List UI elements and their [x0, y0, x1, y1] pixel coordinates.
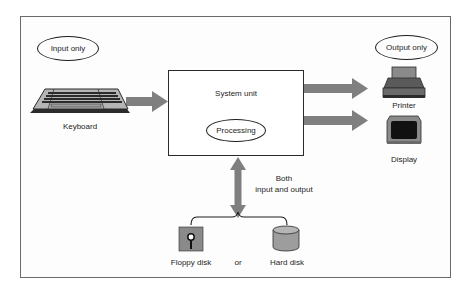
both-label-line2: input and output	[244, 185, 324, 195]
both-label-line1: Both	[258, 174, 310, 184]
display-label: Display	[384, 155, 424, 165]
system-unit-box	[168, 70, 304, 156]
processing-oval: Processing	[206, 119, 266, 142]
keyboard-icon	[30, 89, 130, 113]
system-unit-label: System unit	[206, 89, 266, 99]
arrow-system-to-display	[304, 110, 368, 131]
floppy-disk-icon	[179, 227, 203, 251]
input-only-oval: Input only	[37, 36, 99, 61]
printer-label: Printer	[384, 101, 424, 111]
storage-brace	[191, 212, 287, 225]
floppy-disk-label: Floppy disk	[163, 258, 219, 268]
arrow-system-to-printer	[304, 78, 368, 99]
arrow-keyboard-to-system	[126, 91, 168, 112]
output-only-oval: Output only	[375, 35, 438, 60]
hard-disk-label: Hard disk	[262, 258, 312, 268]
hard-disk-icon	[273, 226, 299, 251]
keyboard-label: Keyboard	[52, 122, 108, 132]
printer-icon	[383, 67, 425, 98]
or-label: or	[230, 258, 246, 268]
monitor-icon	[387, 116, 421, 144]
